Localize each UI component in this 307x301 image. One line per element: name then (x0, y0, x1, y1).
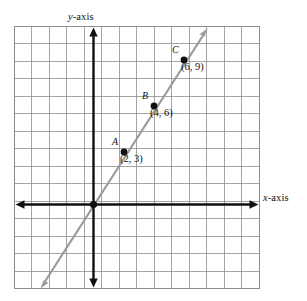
coordinate-plane-figure: y-axis x-axis A (2, 3) B (4, 6) C (6, 9) (0, 0, 307, 301)
x-axis-arrow-left (16, 200, 25, 208)
x-axis-label: x-axis (263, 192, 289, 203)
x-axis-line (16, 200, 259, 208)
line-arrow-down-left (41, 280, 49, 288)
y-axis-line (89, 28, 97, 288)
point-c-coords: (6, 9) (181, 61, 204, 72)
point-c-letter: C (172, 44, 179, 55)
graph-canvas (0, 0, 307, 301)
point-b-coords: (4, 6) (150, 107, 173, 118)
point-a-letter: A (112, 136, 118, 147)
y-axis-label-suffix: -axis (73, 11, 94, 22)
x-axis-arrow-right (250, 200, 259, 208)
point-a-coords: (2, 3) (120, 153, 143, 164)
point-b-letter: B (142, 90, 148, 101)
y-axis-label: y-axis (68, 11, 94, 22)
y-axis-arrow-down (89, 279, 97, 288)
y-axis-arrow-up (89, 28, 97, 37)
origin-dot (90, 201, 97, 208)
x-axis-label-suffix: -axis (268, 192, 289, 203)
